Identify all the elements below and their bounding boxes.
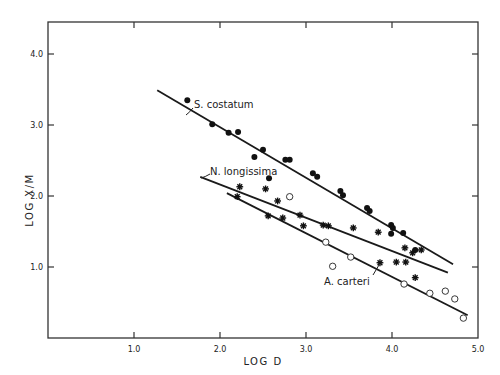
point-filled-circle (314, 174, 320, 180)
point-asterisk (412, 274, 419, 281)
annotation-n-longissima: N. longissima (201, 166, 277, 178)
axis-ticks (48, 22, 478, 338)
point-filled-circle (390, 225, 396, 231)
point-asterisk (279, 215, 286, 222)
annotation-text: A. carteri (324, 276, 370, 287)
point-asterisk (234, 193, 241, 200)
point-asterisk (265, 212, 272, 219)
plot-frame (48, 22, 478, 338)
point-asterisk (325, 222, 332, 229)
x-tick-label: 1.0 (128, 345, 141, 354)
point-asterisk (393, 259, 400, 266)
data-points (184, 97, 466, 321)
x-axis-label: LOG D (243, 356, 282, 367)
x-tick-label: 5.0 (472, 345, 485, 354)
point-open-circle (323, 239, 329, 245)
point-asterisk (350, 225, 357, 232)
point-asterisk (402, 259, 409, 266)
point-filled-circle (209, 121, 215, 127)
tick-labels: 1.02.03.04.05.01.02.03.04.0 (30, 50, 484, 354)
x-tick-label: 3.0 (300, 345, 313, 354)
point-asterisk (377, 259, 384, 266)
point-open-circle (452, 296, 458, 302)
point-asterisk (320, 222, 327, 229)
point-open-circle (286, 194, 292, 200)
annotation-text: S. costatum (194, 99, 254, 110)
point-filled-circle (367, 208, 373, 214)
point-open-circle (442, 288, 448, 294)
point-open-circle (401, 281, 407, 287)
point-filled-circle (340, 192, 346, 198)
y-tick-label: 3.0 (30, 121, 43, 130)
point-filled-circle (251, 154, 257, 160)
point-filled-circle (184, 97, 190, 103)
point-asterisk (300, 222, 307, 229)
point-asterisk (402, 244, 409, 251)
point-asterisk (262, 186, 269, 193)
point-filled-circle (388, 231, 394, 237)
y-tick-label: 4.0 (30, 50, 43, 59)
point-asterisk (274, 198, 281, 205)
point-filled-circle (235, 129, 241, 135)
y-tick-label: 1.0 (30, 263, 43, 272)
point-open-circle (329, 263, 335, 269)
point-asterisk (375, 229, 382, 236)
annotation-text: N. longissima (210, 166, 277, 177)
point-open-circle (427, 290, 433, 296)
fit-line (227, 193, 468, 315)
x-tick-label: 2.0 (214, 345, 227, 354)
point-open-circle (348, 254, 354, 260)
point-open-circle (460, 315, 466, 321)
point-filled-circle (226, 130, 232, 136)
x-tick-label: 4.0 (386, 345, 399, 354)
point-filled-circle (287, 157, 293, 163)
point-filled-circle (400, 230, 406, 236)
scatter-plot: 1.02.03.04.05.01.02.03.04.0 LOG D LOG X/… (0, 0, 500, 375)
y-axis-label: LOG X/M (24, 173, 35, 226)
fit-lines (157, 90, 467, 315)
point-asterisk (297, 212, 304, 219)
point-asterisk (409, 249, 416, 256)
point-asterisk (418, 247, 425, 254)
point-asterisk (236, 183, 243, 190)
point-filled-circle (260, 147, 266, 153)
